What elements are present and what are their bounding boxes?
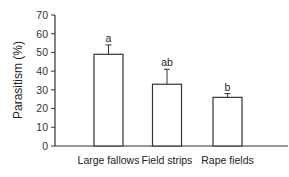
y-tick-label: 10 (36, 121, 48, 133)
y-tick-label: 0 (42, 140, 48, 152)
category-label: Rape fields (201, 154, 254, 166)
y-tick-label: 30 (36, 84, 48, 96)
significance-label: ab (161, 56, 173, 68)
y-tick-label: 70 (36, 9, 48, 21)
y-tick-label: 20 (36, 102, 48, 114)
y-tick-label: 40 (36, 65, 48, 77)
y-tick-label: 60 (36, 28, 48, 40)
y-axis: 010203040506070 (36, 9, 55, 152)
bars: aLarge fallowsabField stripsbRape fields (78, 32, 254, 166)
bar-chart: 010203040506070 aLarge fallowsabField st… (0, 0, 289, 177)
bar-group: abField strips (142, 56, 193, 166)
bar-group: bRape fields (201, 81, 254, 166)
y-axis-label: Parasitism (%) (11, 41, 25, 119)
bar (94, 54, 123, 146)
category-label: Large fallows (78, 154, 140, 166)
significance-label: a (106, 32, 112, 44)
bar (153, 84, 182, 146)
bar (213, 97, 242, 146)
category-label: Field strips (142, 154, 193, 166)
y-tick-label: 50 (36, 46, 48, 58)
significance-label: b (225, 81, 231, 93)
